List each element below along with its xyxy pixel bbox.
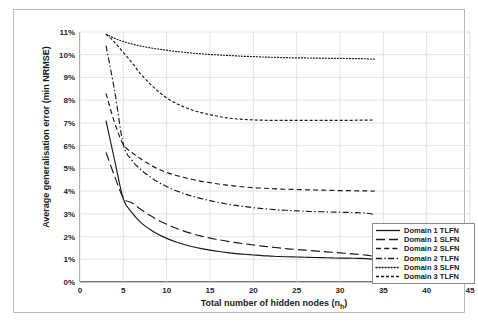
x-tick-label: 45 <box>466 286 475 295</box>
legend-label: Domain 2 SLFN <box>404 244 459 253</box>
chart-frame: 0%1%2%3%4%5%6%7%8%9%10%11% 0510152025303… <box>13 9 465 313</box>
y-tick-label: 8% <box>63 96 75 105</box>
y-tick-label: 11% <box>59 28 75 37</box>
series-line-domain-3-slfn <box>106 34 375 59</box>
legend-item[interactable]: Domain 2 TLFN <box>375 254 471 263</box>
y-tick-label: 6% <box>63 141 75 150</box>
legend-label: Domain 3 SLFN <box>404 263 459 272</box>
legend-swatch-domain-3-slfn <box>375 263 401 272</box>
chart-legend: Domain 1 TLFNDomain 1 SLFNDomain 2 SLFND… <box>372 223 475 284</box>
y-tick-label: 9% <box>63 73 75 82</box>
y-tick-label: 4% <box>63 187 75 196</box>
legend-swatch-domain-1-tlfn <box>375 226 401 235</box>
series-line-domain-1-slfn <box>106 152 375 256</box>
y-tick-label: 7% <box>63 118 75 127</box>
y-tick-label: 5% <box>63 164 75 173</box>
series-line-domain-2-slfn <box>106 93 375 191</box>
x-tick-label: 30 <box>336 286 345 295</box>
x-tick-label: 35 <box>379 286 388 295</box>
x-axis-title: Total number of hidden nodes (nh) <box>79 298 469 310</box>
x-tick-label: 0 <box>78 286 82 295</box>
legend-label: Domain 1 SLFN <box>404 235 459 244</box>
x-tick-label: 40 <box>422 286 431 295</box>
legend-item[interactable]: Domain 1 SLFN <box>375 235 471 244</box>
y-tick-label: 1% <box>63 255 75 264</box>
x-tick-label: 10 <box>162 286 171 295</box>
x-tick-label: 5 <box>121 286 125 295</box>
y-axis-title: Average generalisation error (min NRMSE) <box>41 17 51 257</box>
series-line-domain-2-tlfn <box>106 46 375 215</box>
legend-item[interactable]: Domain 3 SLFN <box>375 263 471 272</box>
legend-swatch-domain-2-tlfn <box>375 254 401 263</box>
legend-label: Domain 2 TLFN <box>404 254 459 263</box>
chart-page: 0%1%2%3%4%5%6%7%8%9%10%11% 0510152025303… <box>0 0 478 326</box>
legend-swatch-domain-2-slfn <box>375 244 401 253</box>
y-tick-label: 2% <box>63 232 75 241</box>
legend-label: Domain 3 TLFN <box>404 272 459 281</box>
x-axis-title-paren: ) <box>344 298 347 308</box>
legend-item[interactable]: Domain 1 TLFN <box>375 226 471 235</box>
x-tick-label: 15 <box>206 286 215 295</box>
y-tick-label: 0% <box>63 278 75 287</box>
legend-item[interactable]: Domain 2 SLFN <box>375 244 471 253</box>
x-tick-label: 20 <box>249 286 258 295</box>
legend-swatch-domain-1-slfn <box>375 235 401 244</box>
y-tick-label: 10% <box>59 50 75 59</box>
x-axis-title-text: Total number of hidden nodes (n <box>201 298 340 308</box>
x-tick-label: 25 <box>292 286 301 295</box>
y-tick-label: 3% <box>63 209 75 218</box>
legend-label: Domain 1 TLFN <box>404 226 459 235</box>
legend-item[interactable]: Domain 3 TLFN <box>375 272 471 281</box>
legend-swatch-domain-3-tlfn <box>375 272 401 281</box>
